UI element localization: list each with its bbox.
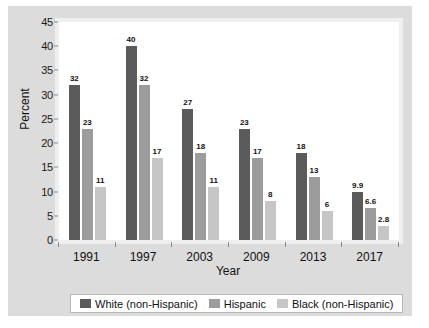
x-tick-mark bbox=[398, 242, 399, 247]
x-tick-mark bbox=[285, 242, 286, 247]
bar-value-label: 11 bbox=[96, 176, 104, 185]
legend-entry[interactable]: White (non-Hispanic) bbox=[80, 298, 198, 310]
legend-entry[interactable]: Hispanic bbox=[209, 298, 266, 310]
y-axis: 051015202530354045 bbox=[8, 22, 58, 240]
bar bbox=[309, 177, 320, 240]
figure-panel: 32231140321727181123178181369.96.62.8 05… bbox=[8, 6, 412, 316]
y-tick-mark bbox=[54, 191, 58, 192]
x-tick-mark bbox=[228, 242, 229, 247]
legend-label: Hispanic bbox=[224, 298, 266, 310]
bar-value-label: 8 bbox=[268, 190, 272, 199]
legend-swatch-icon bbox=[80, 299, 91, 308]
bar bbox=[239, 129, 250, 240]
bar-value-label: 17 bbox=[153, 147, 162, 156]
bar bbox=[82, 129, 93, 240]
y-tick-mark bbox=[54, 143, 58, 144]
bar-value-label: 32 bbox=[140, 74, 149, 83]
x-tick-label: 2017 bbox=[356, 250, 383, 264]
legend-swatch-icon bbox=[209, 299, 220, 308]
bar-value-label: 18 bbox=[196, 142, 205, 151]
x-axis: 199119972003200920132017 bbox=[58, 242, 398, 264]
bar bbox=[378, 226, 389, 240]
legend-entry[interactable]: Black (non-Hispanic) bbox=[277, 298, 393, 310]
bar-value-label: 18 bbox=[297, 142, 306, 151]
plot-inner: 32231140321727181123178181369.96.62.8 bbox=[59, 22, 399, 240]
legend-swatch-icon bbox=[277, 299, 288, 308]
bar bbox=[182, 109, 193, 240]
y-tick-mark bbox=[54, 94, 58, 95]
x-tick-label: 2009 bbox=[243, 250, 270, 264]
bar bbox=[322, 211, 333, 240]
bar bbox=[296, 153, 307, 240]
bar bbox=[126, 46, 137, 240]
x-tick-mark bbox=[171, 242, 172, 247]
bar bbox=[208, 187, 219, 240]
bar bbox=[352, 192, 363, 240]
y-tick-label: 45 bbox=[18, 16, 58, 28]
bar-value-label: 32 bbox=[70, 74, 79, 83]
y-tick-mark bbox=[54, 240, 58, 241]
y-tick-label: 0 bbox=[18, 234, 58, 246]
y-tick-label: 10 bbox=[18, 186, 58, 198]
x-tick-mark bbox=[115, 242, 116, 247]
x-tick-mark bbox=[58, 242, 59, 247]
chart-legend: White (non-Hispanic)HispanicBlack (non-H… bbox=[70, 294, 403, 313]
bar-value-label: 2.8 bbox=[378, 215, 389, 224]
bar-value-label: 17 bbox=[253, 147, 262, 156]
bar-value-label: 6 bbox=[325, 200, 329, 209]
legend-label: Black (non-Hispanic) bbox=[292, 298, 393, 310]
bar-value-label: 23 bbox=[83, 118, 92, 127]
y-tick-label: 5 bbox=[18, 210, 58, 222]
y-tick-mark bbox=[54, 46, 58, 47]
bar-value-label: 27 bbox=[183, 98, 192, 107]
chart-screenshot: 32231140321727181123178181369.96.62.8 05… bbox=[0, 0, 429, 328]
bar-value-label: 13 bbox=[310, 166, 319, 175]
x-axis-title: Year bbox=[58, 264, 398, 278]
x-tick-label: 1991 bbox=[73, 250, 100, 264]
x-tick-mark bbox=[341, 242, 342, 247]
bar bbox=[195, 153, 206, 240]
y-tick-mark bbox=[54, 70, 58, 71]
x-tick-label: 1997 bbox=[130, 250, 157, 264]
plot-area: 32231140321727181123178181369.96.62.8 bbox=[58, 22, 399, 241]
legend-label: White (non-Hispanic) bbox=[95, 298, 198, 310]
bar-value-label: 11 bbox=[209, 176, 217, 185]
bar bbox=[252, 158, 263, 240]
bar bbox=[152, 158, 163, 240]
x-tick-label: 2013 bbox=[300, 250, 327, 264]
bar-value-label: 9.9 bbox=[352, 181, 363, 190]
y-tick-mark bbox=[54, 118, 58, 119]
bar bbox=[139, 85, 150, 240]
x-tick-label: 2003 bbox=[186, 250, 213, 264]
bar bbox=[265, 201, 276, 240]
y-tick-mark bbox=[54, 215, 58, 216]
bar bbox=[365, 208, 376, 240]
bar-value-label: 40 bbox=[127, 35, 136, 44]
y-tick-mark bbox=[54, 22, 58, 23]
y-axis-title: Percent bbox=[18, 49, 32, 169]
bar-value-label: 23 bbox=[240, 118, 249, 127]
y-tick-mark bbox=[54, 167, 58, 168]
bar bbox=[69, 85, 80, 240]
bar bbox=[95, 187, 106, 240]
bar-value-label: 6.6 bbox=[365, 197, 376, 206]
